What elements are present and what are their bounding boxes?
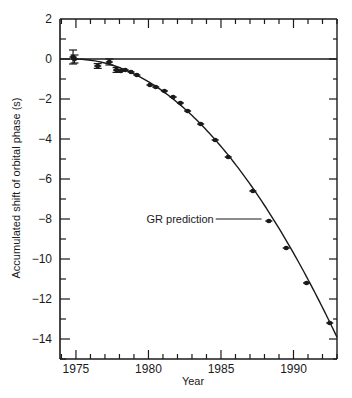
data-point — [170, 95, 177, 99]
plot-frame — [60, 19, 337, 359]
y-tick-label: −6 — [38, 172, 52, 186]
y-tick-label: 2 — [45, 12, 52, 26]
point-marker — [72, 57, 77, 61]
gr-prediction-label: GR prediction — [146, 213, 213, 225]
data-point — [94, 64, 102, 69]
orbital-phase-chart: 1975198019851990 20−2−4−6−8−10−12−14 GR … — [0, 0, 352, 398]
y-tick-label: −4 — [38, 132, 52, 146]
x-tick-label: 1980 — [135, 362, 162, 376]
y-tick-label: −10 — [32, 252, 53, 266]
y-axis-title: Accumulated shift of orbital phase (s) — [10, 98, 22, 279]
point-marker — [134, 73, 139, 77]
data-point — [69, 50, 77, 64]
point-marker — [250, 189, 255, 193]
x-axis-title: Year — [182, 375, 205, 387]
point-marker — [128, 70, 133, 74]
point-marker — [304, 281, 309, 285]
point-marker — [327, 321, 332, 325]
data-point — [177, 101, 184, 105]
gr-curve-path — [73, 59, 337, 337]
y-tick-label: −8 — [38, 212, 52, 226]
point-marker — [185, 109, 190, 113]
data-points — [69, 50, 333, 325]
point-marker — [171, 95, 176, 99]
data-point — [161, 89, 168, 93]
gr-prediction-curve — [73, 59, 337, 337]
point-marker — [147, 83, 152, 87]
x-tick-label: 1985 — [208, 362, 235, 376]
point-marker — [178, 101, 183, 105]
data-point — [283, 246, 290, 250]
y-tick-label: −12 — [32, 292, 53, 306]
data-point — [265, 219, 272, 223]
point-marker — [266, 219, 271, 223]
point-marker — [123, 68, 128, 72]
point-marker — [95, 64, 100, 68]
annotations: GR prediction — [146, 213, 261, 225]
point-marker — [153, 85, 158, 89]
y-tick-label: 0 — [45, 52, 52, 66]
point-marker — [213, 138, 218, 142]
point-marker — [162, 89, 167, 93]
y-tick-label: −2 — [38, 92, 52, 106]
point-marker — [284, 246, 289, 250]
data-point — [326, 321, 333, 325]
point-marker — [198, 122, 203, 126]
y-tick-label: −14 — [32, 332, 53, 346]
x-axis-ticks: 1975198019851990 — [61, 19, 337, 376]
point-marker — [226, 155, 231, 159]
y-axis-ticks: 20−2−4−6−8−10−12−14 — [32, 12, 337, 359]
x-tick-label: 1975 — [63, 362, 90, 376]
x-tick-label: 1990 — [280, 362, 307, 376]
point-marker — [107, 60, 112, 64]
